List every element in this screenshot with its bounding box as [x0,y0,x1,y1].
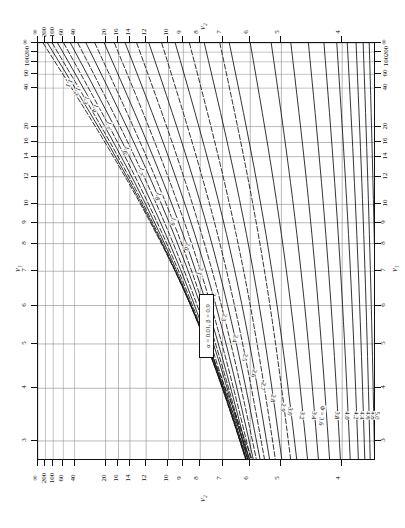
tick-mark-right [375,305,381,306]
tick-top-nu2-14: 14 [123,29,131,36]
tick-mark-top [249,36,250,42]
tick-mark-right [375,243,381,244]
tick-mark-left [31,126,37,127]
tick-top-nu2-16: 16 [112,29,120,36]
tick-mark-bottom [249,460,250,466]
tick-right-nu1-10: 10 [381,200,389,207]
tick-mark-top [199,36,200,42]
tick-mark-bottom [44,460,45,466]
tick-mark-right [375,176,381,177]
tick-mark-bottom [199,460,200,466]
phi-curve-label: 5.0 [374,411,381,420]
tick-bottom-nu2-12: 12 [140,475,148,482]
tick-mark-top [37,36,38,42]
tick-bottom-nu2-7: 7 [214,476,222,480]
tick-top-nu2-20: 20 [99,29,107,36]
tick-mark-right [375,387,381,388]
tick-mark-right [375,87,381,88]
tick-right-nu1-16: 16 [381,138,389,145]
tick-top-nu2-9: 9 [175,30,183,34]
tick-left-nu1-9: 9 [20,220,28,224]
tick-mark-bottom [182,460,183,466]
tick-bottom-nu2-inf: ∞ [31,476,39,481]
tick-top-nu2-7: 7 [214,30,222,34]
tick-mark-left [31,73,37,74]
tick-mark-left [31,203,37,204]
tick-mark-left [31,270,37,271]
tick-right-nu1-20: 20 [381,122,389,129]
tick-mark-left [31,51,37,52]
tick-mark-left [31,61,37,62]
tick-mark-left [31,387,37,388]
tick-mark-top [129,36,130,42]
tick-mark-right [375,440,381,441]
tick-bottom-nu2-9: 9 [175,476,183,480]
tick-mark-bottom [167,460,168,466]
phi-curve [47,43,250,460]
tick-mark-bottom [222,460,223,466]
tick-mark-right [375,141,381,142]
tick-mark-left [31,243,37,244]
tick-mark-left [31,156,37,157]
tick-bottom-nu2-6: 6 [242,476,250,480]
tick-left-nu1-14: 14 [22,152,30,159]
tick-left-nu1-3: 3 [20,438,28,442]
tick-mark-left [31,42,37,43]
tick-mark-bottom [117,460,118,466]
tick-top-nu2-12: 12 [140,29,148,36]
tick-mark-right [375,156,381,157]
tick-mark-bottom [145,460,146,466]
tick-left-nu1-6: 6 [20,303,28,307]
tick-top-nu2-60: 60 [57,29,65,36]
tick-mark-left [31,222,37,223]
tick-mark-left [31,176,37,177]
tick-mark-right [375,126,381,127]
tick-left-nu1-inf: ∞ [21,40,29,45]
tick-mark-top [182,36,183,42]
tick-mark-bottom [105,460,106,466]
tick-mark-right [375,343,381,344]
tick-mark-top [52,36,53,42]
tick-left-nu1-12: 12 [22,172,30,179]
phi-curve [137,43,257,460]
tick-bottom-nu2-10: 10 [162,475,170,482]
tick-mark-top [280,36,281,42]
tick-mark-left [31,305,37,306]
tick-mark-bottom [74,460,75,466]
phi-curve-label: 3.4 [310,411,318,421]
phi-curve-label: Φ = 3.6 [318,405,327,426]
tick-bottom-nu2-100: 100 [48,473,56,484]
axis-title-top-nu2: ν₂ [198,23,207,29]
tick-top-nu2-10: 10 [162,29,170,36]
tick-bottom-nu2-5: 5 [273,476,281,480]
alpha-beta-annotation-text: α = 0.01, β = 0.9 [203,304,210,347]
tick-top-nu2-5: 5 [273,30,281,34]
tick-mark-left [31,87,37,88]
tick-mark-bottom [129,460,130,466]
tick-mark-right [375,222,381,223]
tick-mark-bottom [52,460,53,466]
plot-canvas [38,43,375,460]
tick-mark-left [31,343,37,344]
tick-mark-top [145,36,146,42]
tick-mark-left [31,440,37,441]
axis-title-left-nu1: ν₁ [13,265,22,271]
phi-curve-label: 3.8 [334,411,342,421]
tick-mark-top [105,36,106,42]
tick-right-nu1-60: 60 [381,70,389,77]
tick-mark-top [341,36,342,42]
power-chart-figure: ∞200100604020161412109876543∞20010060402… [0,0,405,528]
tick-mark-top [117,36,118,42]
tick-bottom-nu2-20: 20 [99,475,107,482]
tick-mark-top [74,36,75,42]
tick-mark-bottom [341,460,342,466]
tick-mark-bottom [62,460,63,466]
tick-top-nu2-40: 40 [68,29,76,36]
tick-left-nu1-8: 8 [20,241,28,245]
tick-left-nu1-4: 4 [20,386,28,390]
axis-title-right-nu1: ν₁ [390,265,399,271]
tick-mark-left [31,141,37,142]
tick-bottom-nu2-40: 40 [68,475,76,482]
axis-title-bottom-nu2: ν₂ [198,495,207,501]
alpha-beta-annotation-box: α = 0.01, β = 0.9 [199,294,214,358]
